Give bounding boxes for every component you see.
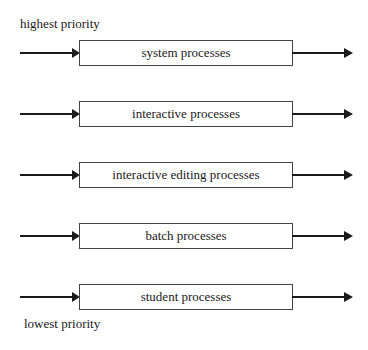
- input-arrow-line: [20, 113, 74, 115]
- arrow-right-icon: [344, 109, 353, 119]
- queue-box-interactive-editing: interactive editing processes: [79, 162, 293, 188]
- arrow-right-icon: [344, 292, 353, 302]
- queue-box-student: student processes: [79, 284, 293, 310]
- queue-row-system: system processes: [0, 40, 368, 67]
- input-arrow-line: [20, 296, 74, 298]
- queue-row-interactive: interactive processes: [0, 101, 368, 128]
- input-arrow-line: [20, 52, 74, 54]
- output-arrow-line: [292, 52, 344, 54]
- queue-row-batch: batch processes: [0, 223, 368, 250]
- output-arrow-line: [292, 235, 344, 237]
- queue-row-interactive-editing: interactive editing processes: [0, 162, 368, 189]
- input-arrow-line: [20, 174, 74, 176]
- lowest-priority-label: lowest priority: [24, 316, 100, 332]
- arrow-right-icon: [344, 48, 353, 58]
- output-arrow-line: [292, 174, 344, 176]
- queue-box-batch: batch processes: [79, 223, 293, 249]
- output-arrow-line: [292, 113, 344, 115]
- input-arrow-line: [20, 235, 74, 237]
- arrow-right-icon: [344, 170, 353, 180]
- queue-box-system: system processes: [79, 40, 293, 66]
- arrow-right-icon: [344, 231, 353, 241]
- queue-box-interactive: interactive processes: [79, 101, 293, 127]
- highest-priority-label: highest priority: [20, 16, 100, 32]
- output-arrow-line: [292, 296, 344, 298]
- queue-row-student: student processes: [0, 284, 368, 311]
